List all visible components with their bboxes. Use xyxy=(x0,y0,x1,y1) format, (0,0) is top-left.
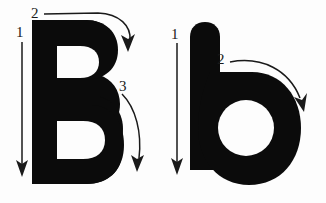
stroke-number-lowercase-2: 2 xyxy=(217,52,225,67)
stroke-number-uppercase-3: 3 xyxy=(119,79,127,94)
stroke-number-lowercase-1: 1 xyxy=(171,27,179,42)
arrow-uppercase-stroke-1 xyxy=(16,42,28,177)
arrow-uppercase-stroke-2 xyxy=(44,13,135,52)
stroke-order-figure: 1 2 3 1 2 xyxy=(0,0,326,203)
arrow-lowercase-stroke-2 xyxy=(230,61,307,112)
stroke-number-uppercase-2: 2 xyxy=(31,6,39,21)
stroke-arrows-layer xyxy=(0,0,326,203)
stroke-number-uppercase-1: 1 xyxy=(16,25,24,40)
arrow-uppercase-stroke-3 xyxy=(122,94,144,172)
arrow-lowercase-stroke-1 xyxy=(171,43,183,175)
